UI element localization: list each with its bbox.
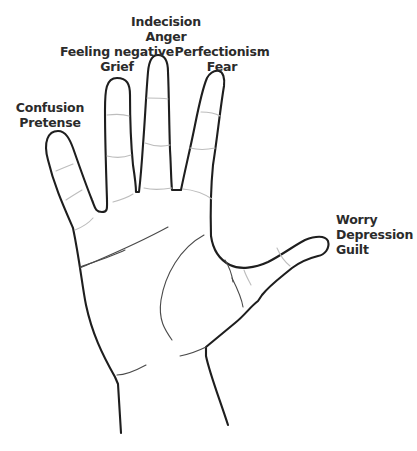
ring-crease-bottom <box>107 155 131 157</box>
pinky-label-line-1: Confusion <box>14 100 86 115</box>
index-label-line-2: Fear <box>172 59 272 74</box>
index-crease-top <box>201 112 220 116</box>
middle-base-crease <box>144 188 172 190</box>
label-middle: Indecision Anger <box>126 14 206 44</box>
thumb-mount-line-2 <box>232 278 243 307</box>
head-line <box>80 227 168 268</box>
thumb-label-line-1: Worry <box>336 212 413 227</box>
ring-base-crease <box>113 194 133 202</box>
label-pinky: Confusion Pretense <box>14 100 86 130</box>
ring-label-line-2: Grief <box>56 59 178 74</box>
hand-outline <box>46 55 328 433</box>
index-base-crease <box>183 189 212 199</box>
pinky-label-line-2: Pretense <box>14 115 86 130</box>
pinky-base-crease <box>75 218 93 230</box>
label-ring: Feeling negative Grief <box>56 44 178 74</box>
wrist-crease-left <box>117 365 146 375</box>
middle-crease-bottom <box>145 143 170 146</box>
hand-diagram: Confusion Pretense Feeling negative Grie… <box>0 0 417 451</box>
ring-label-line-1: Feeling negative <box>56 44 178 59</box>
wrist-crease-right <box>180 347 206 356</box>
pinky-crease-bottom <box>66 190 82 200</box>
ring-crease-top <box>107 114 129 116</box>
middle-label-line-1: Indecision <box>126 14 206 29</box>
label-index: Perfectionism Fear <box>172 44 272 74</box>
index-label-line-1: Perfectionism <box>172 44 272 59</box>
life-line <box>160 235 204 340</box>
label-thumb: Worry Depression Guilt <box>336 212 413 257</box>
middle-crease-top <box>147 98 168 99</box>
middle-label-line-2: Anger <box>126 29 206 44</box>
thumb-label-line-3: Guilt <box>336 242 413 257</box>
thumb-label-line-2: Depression <box>336 227 413 242</box>
index-crease-bottom <box>190 148 215 150</box>
pinky-crease-top <box>56 164 73 171</box>
thumb-base-crease <box>244 270 251 285</box>
